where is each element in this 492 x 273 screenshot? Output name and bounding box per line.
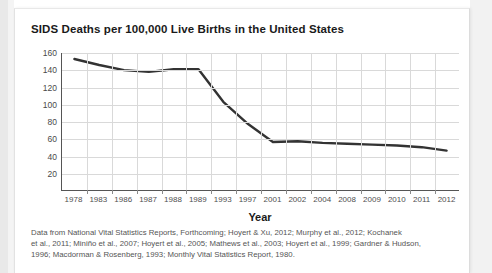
- y-axis-tick-label: 40: [31, 152, 57, 162]
- x-axis-tick-label: 1993: [214, 195, 232, 204]
- chart-title: SIDS Deaths per 100,000 Live Births in t…: [31, 23, 344, 35]
- gridline-vertical: [261, 53, 262, 190]
- x-axis-tick-mark: [435, 190, 436, 194]
- gridline-vertical: [435, 53, 436, 190]
- x-axis-tick-mark: [236, 190, 237, 194]
- y-axis-tick-label: 100: [31, 100, 57, 110]
- chart-plot-area: 20406080100120140160 1978198319861987198…: [31, 45, 461, 205]
- gridline-vertical: [385, 53, 386, 190]
- y-axis-tick-label: 140: [31, 65, 57, 75]
- x-axis-tick-label: 1983: [89, 195, 107, 204]
- y-axis-tick-label: 120: [31, 83, 57, 93]
- x-axis-tick-mark: [186, 190, 187, 194]
- x-axis-title: Year: [61, 211, 459, 223]
- source-citation: Data from National Vital Statistics Repo…: [31, 227, 455, 261]
- x-axis-tick-label: 2012: [438, 195, 456, 204]
- x-axis-tick-mark: [162, 190, 163, 194]
- y-axis-tick-label: 80: [31, 117, 57, 127]
- y-axis-tick-label: 20: [31, 169, 57, 179]
- x-axis-tick-label: 2008: [338, 195, 356, 204]
- screenshot-root: SIDS Deaths per 100,000 Live Births in t…: [0, 0, 492, 273]
- source-line-3: 1996; Macdorman & Rosenberg, 1993; Month…: [31, 249, 455, 260]
- x-axis-tick-mark: [137, 190, 138, 194]
- x-axis-tick-label: 2011: [413, 195, 430, 204]
- gridline-vertical: [361, 53, 362, 190]
- x-axis-tick-mark: [211, 190, 212, 194]
- gridline-vertical: [286, 53, 287, 190]
- y-axis-tick-labels: 20406080100120140160: [31, 45, 57, 191]
- y-axis-tick-label: 160: [31, 48, 57, 58]
- x-axis-tick-mark: [410, 190, 411, 194]
- page-background-right: [470, 0, 492, 273]
- x-axis-tick-mark: [336, 190, 337, 194]
- gridline-vertical: [87, 53, 88, 190]
- gridline-vertical: [236, 53, 237, 190]
- x-axis-tick-label: 1978: [65, 195, 83, 204]
- x-axis-tick-mark: [361, 190, 362, 194]
- x-axis-tick-label: 1987: [139, 195, 157, 204]
- x-axis-tick-mark: [311, 190, 312, 194]
- gridline-vertical: [410, 53, 411, 190]
- x-axis-tick-labels: 1978198319861987198819891993199720012002…: [61, 195, 459, 209]
- x-axis-tick-mark: [87, 190, 88, 194]
- chart-card: SIDS Deaths per 100,000 Live Births in t…: [14, 8, 470, 273]
- x-axis-tick-label: 1997: [239, 195, 257, 204]
- source-line-1: Data from National Vital Statistics Repo…: [31, 227, 455, 238]
- plot-canvas: [61, 53, 459, 191]
- x-axis-tick-mark: [286, 190, 287, 194]
- source-line-2: et al., 2011; Miniño et al., 2007; Hoyer…: [31, 238, 455, 249]
- x-axis-tick-label: 2010: [388, 195, 406, 204]
- x-axis-tick-label: 1989: [189, 195, 207, 204]
- x-axis-tick-label: 2002: [288, 195, 306, 204]
- x-axis-tick-label: 2001: [264, 195, 282, 204]
- left-gutter-strip: [0, 0, 8, 273]
- x-axis-tick-mark: [112, 190, 113, 194]
- gridline-vertical: [162, 53, 163, 190]
- gridline-vertical: [211, 53, 212, 190]
- x-axis-tick-label: 2009: [363, 195, 381, 204]
- gridline-vertical: [137, 53, 138, 190]
- gridline-vertical: [311, 53, 312, 190]
- gridline-vertical: [186, 53, 187, 190]
- x-axis-tick-label: 1986: [114, 195, 132, 204]
- x-axis-tick-mark: [385, 190, 386, 194]
- x-axis-tick-mark: [261, 190, 262, 194]
- x-axis-tick-label: 2004: [313, 195, 331, 204]
- x-axis-tick-label: 1988: [164, 195, 182, 204]
- gridline-vertical: [336, 53, 337, 190]
- y-axis-tick-label: 60: [31, 134, 57, 144]
- gridline-vertical: [112, 53, 113, 190]
